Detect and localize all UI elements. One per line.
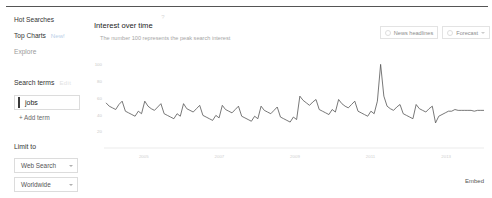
new-badge: New! bbox=[51, 32, 65, 39]
sidebar: Hot Searches Top Charts New! Explore Sea… bbox=[0, 12, 88, 198]
y-axis-tick-label: 80 bbox=[97, 79, 102, 84]
x-axis-tick-label: 2009 bbox=[290, 154, 300, 159]
series-line-jobs bbox=[106, 64, 484, 123]
add-term-label: + Add term bbox=[19, 114, 50, 121]
news-headlines-label: News headlines bbox=[394, 30, 434, 36]
sidebar-item-hot-searches[interactable]: Hot Searches bbox=[0, 12, 88, 28]
select-region-value: Worldwide bbox=[21, 181, 69, 188]
sidebar-item-explore[interactable]: Explore bbox=[0, 44, 88, 60]
trends-explore-screen: Hot Searches Top Charts New! Explore Sea… bbox=[0, 0, 492, 198]
y-axis-tick-label: 20 bbox=[97, 129, 102, 134]
y-axis-tick-label: 40 bbox=[97, 113, 102, 118]
x-axis-tick-label: 2013 bbox=[441, 154, 451, 159]
toggle-circle-icon bbox=[447, 30, 453, 36]
sidebar-item-label: Explore bbox=[14, 48, 36, 55]
sidebar-item-top-charts[interactable]: Top Charts New! bbox=[0, 28, 88, 44]
search-terms-edit-link[interactable]: Edit bbox=[59, 76, 71, 90]
search-terms-heading: Search terms Edit bbox=[0, 76, 88, 90]
search-terms-label: Search terms bbox=[14, 76, 54, 90]
x-axis-tick-label: 2007 bbox=[215, 154, 225, 159]
forecast-label: Forecast bbox=[456, 30, 478, 36]
search-term-value: jobs bbox=[25, 99, 38, 106]
y-axis-tick-label: 60 bbox=[97, 96, 102, 101]
select-search-type-value: Web Search bbox=[21, 162, 69, 169]
search-term-chip[interactable]: jobs bbox=[14, 95, 80, 110]
toggle-circle-icon bbox=[385, 30, 391, 36]
select-region[interactable]: Worldwide bbox=[14, 177, 78, 192]
sidebar-item-label: Top Charts bbox=[14, 32, 46, 39]
chevron-down-icon bbox=[69, 184, 73, 186]
question-mark-icon[interactable]: ? bbox=[161, 14, 164, 20]
interest-over-time-line-chart[interactable]: 1008060402020052007200920112013 bbox=[88, 50, 492, 172]
sidebar-item-label: Hot Searches bbox=[14, 16, 54, 23]
term-color-swatch bbox=[18, 97, 21, 108]
limit-to-label: Limit to bbox=[14, 143, 36, 150]
chevron-down-icon bbox=[481, 32, 485, 34]
chart-area[interactable]: 1008060402020052007200920112013 bbox=[88, 50, 492, 172]
chevron-down-icon bbox=[69, 165, 73, 167]
y-axis-tick-label: 100 bbox=[95, 62, 103, 67]
page-top-divider bbox=[6, 6, 488, 7]
page-title: Interest over time bbox=[94, 21, 153, 30]
x-axis-tick-label: 2005 bbox=[139, 154, 149, 159]
news-headlines-button[interactable]: News headlines bbox=[380, 26, 439, 39]
x-axis-tick-label: 2011 bbox=[366, 154, 376, 159]
select-search-type[interactable]: Web Search bbox=[14, 158, 78, 173]
add-term-button[interactable]: + Add term bbox=[0, 110, 88, 124]
chart-toolbar: News headlines Forecast bbox=[380, 26, 490, 39]
limit-to-heading: Limit to bbox=[0, 140, 88, 154]
interest-over-time-panel: Interest over time ? The number 100 repr… bbox=[88, 10, 492, 190]
embed-link[interactable]: Embed bbox=[465, 178, 484, 184]
forecast-button[interactable]: Forecast bbox=[442, 26, 490, 39]
